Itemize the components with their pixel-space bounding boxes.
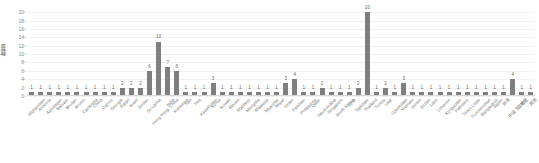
bar-slot[interactable]: 2 bbox=[127, 8, 136, 96]
bar-slot[interactable]: 4 bbox=[508, 8, 517, 96]
bar-slot[interactable]: 1 bbox=[45, 8, 54, 96]
bar-slot[interactable]: 1 bbox=[91, 8, 100, 96]
bar-slot[interactable]: 3 bbox=[281, 8, 290, 96]
bar-slot[interactable]: 1 bbox=[517, 8, 526, 96]
bar-slot[interactable]: 1 bbox=[526, 8, 535, 96]
bar-slot[interactable]: 1 bbox=[181, 8, 190, 96]
bar-slot[interactable]: 3 bbox=[399, 8, 408, 96]
bar-value-label: 1 bbox=[448, 86, 451, 91]
bar[interactable] bbox=[147, 71, 152, 96]
bar-slot[interactable]: 1 bbox=[436, 8, 445, 96]
bar-value-label: 20 bbox=[365, 6, 370, 11]
bar-slot[interactable]: 1 bbox=[218, 8, 227, 96]
bar-slot[interactable]: 1 bbox=[299, 8, 308, 96]
bar-slot[interactable]: 2 bbox=[318, 8, 327, 96]
bar-slot[interactable]: 1 bbox=[490, 8, 499, 96]
bar-value-label: 1 bbox=[412, 86, 415, 91]
bar-value-label: 1 bbox=[430, 86, 433, 91]
bar-value-label: 1 bbox=[248, 86, 251, 91]
bar-slot[interactable]: 1 bbox=[390, 8, 399, 96]
x-label-slot: Singapore bbox=[327, 97, 336, 161]
bar-slot[interactable]: 2 bbox=[136, 8, 145, 96]
bar-slot[interactable]: 6 bbox=[172, 8, 181, 96]
x-label-slot: Syria bbox=[345, 97, 354, 161]
bar-slot[interactable]: 1 bbox=[81, 8, 90, 96]
x-label-slot: Iran bbox=[181, 97, 190, 161]
x-label-slot: Brunei bbox=[72, 97, 81, 161]
bar-slot[interactable]: 1 bbox=[36, 8, 45, 96]
bar-slot[interactable]: 1 bbox=[63, 8, 72, 96]
bar-slot[interactable]: 1 bbox=[345, 8, 354, 96]
bar-value-label: 2 bbox=[384, 82, 387, 87]
bar-slot[interactable]: 1 bbox=[272, 8, 281, 96]
x-label-slot: Bangladesh bbox=[481, 97, 490, 161]
bar-value-label: 3 bbox=[284, 77, 287, 82]
x-label-slot: 中亚-东亚地区 bbox=[508, 97, 517, 161]
x-label-slot: Turkey bbox=[372, 97, 381, 161]
x-label-slot: Indonesia bbox=[172, 97, 181, 161]
x-label-slot: 其他 bbox=[526, 97, 535, 161]
x-label-slot: Turkmenistan bbox=[472, 97, 481, 161]
bar-slot[interactable]: 2 bbox=[118, 8, 127, 96]
bar-slot[interactable]: 6 bbox=[145, 8, 154, 96]
bar-slot[interactable]: 2 bbox=[354, 8, 363, 96]
bar-slot[interactable]: 1 bbox=[463, 8, 472, 96]
bar-slot[interactable]: 1 bbox=[109, 8, 118, 96]
bar-slot[interactable]: 1 bbox=[263, 8, 272, 96]
bar[interactable] bbox=[174, 71, 179, 96]
bar-slot[interactable]: 1 bbox=[426, 8, 435, 96]
x-label-slot: Qatar bbox=[308, 97, 317, 161]
bar-value-label: 1 bbox=[103, 86, 106, 91]
bar-slot[interactable]: 1 bbox=[227, 8, 236, 96]
x-label-slot: Jordan bbox=[136, 97, 145, 161]
bar-slot[interactable]: 1 bbox=[445, 8, 454, 96]
bar-slot[interactable]: 2 bbox=[381, 8, 390, 96]
bar-value-label: 7 bbox=[166, 61, 169, 66]
bar[interactable] bbox=[510, 79, 515, 96]
bar-slot[interactable]: 1 bbox=[481, 8, 490, 96]
bar-slot[interactable]: 1 bbox=[199, 8, 208, 96]
x-label-slot: South Korea bbox=[336, 97, 345, 161]
bar-slot[interactable]: 1 bbox=[408, 8, 417, 96]
bar-slot[interactable]: 1 bbox=[417, 8, 426, 96]
bar-slot[interactable]: 7 bbox=[163, 8, 172, 96]
bar[interactable] bbox=[292, 79, 297, 96]
bar[interactable] bbox=[365, 12, 370, 96]
bar-value-label: 1 bbox=[221, 86, 224, 91]
bar-value-label: 1 bbox=[339, 86, 342, 91]
bar-slot[interactable]: 1 bbox=[72, 8, 81, 96]
bar-slot[interactable]: 1 bbox=[472, 8, 481, 96]
bar-slot[interactable]: 1 bbox=[308, 8, 317, 96]
bar-value-label: 2 bbox=[139, 82, 142, 87]
bar-value-label: 1 bbox=[67, 86, 70, 91]
bar-slot[interactable]: 1 bbox=[27, 8, 36, 96]
bar-value-label: 1 bbox=[484, 86, 487, 91]
bar-slot[interactable]: 1 bbox=[254, 8, 263, 96]
chart-title bbox=[0, 0, 539, 6]
bar[interactable] bbox=[156, 42, 161, 96]
bar-slot[interactable]: 1 bbox=[236, 8, 245, 96]
x-label-slot: Palestine bbox=[454, 97, 463, 161]
bar-slot[interactable]: 4 bbox=[290, 8, 299, 96]
x-label-slot: Malaysia bbox=[254, 97, 263, 161]
bar-value-label: 13 bbox=[156, 35, 161, 40]
bar-slot[interactable]: 1 bbox=[454, 8, 463, 96]
x-label-slot: India bbox=[163, 97, 172, 161]
bar-slot[interactable]: 1 bbox=[245, 8, 254, 96]
bar-slot[interactable]: 1 bbox=[499, 8, 508, 96]
bar[interactable] bbox=[165, 67, 170, 96]
bar-slot[interactable]: 20 bbox=[363, 8, 372, 96]
bar-slot[interactable]: 1 bbox=[372, 8, 381, 96]
bar-value-label: 1 bbox=[530, 86, 533, 91]
bar-value-label: 1 bbox=[493, 86, 496, 91]
bar-slot[interactable]: 13 bbox=[154, 8, 163, 96]
bar-series: 1111111111222613761113111111134112111220… bbox=[27, 8, 535, 96]
bar-slot[interactable]: 1 bbox=[336, 8, 345, 96]
bar-slot[interactable]: 3 bbox=[209, 8, 218, 96]
bar-slot[interactable]: 1 bbox=[54, 8, 63, 96]
bar-value-label: 1 bbox=[57, 86, 60, 91]
bar-slot[interactable]: 1 bbox=[190, 8, 199, 96]
bar-slot[interactable]: 1 bbox=[327, 8, 336, 96]
bar-slot[interactable]: 1 bbox=[100, 8, 109, 96]
x-label-slot: Korea bbox=[209, 97, 218, 161]
